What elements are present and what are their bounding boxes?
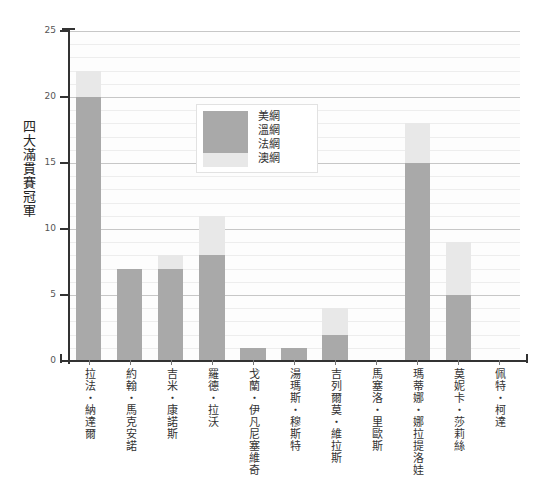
- x-tick-label: 莫妮卡・莎莉絲: [452, 368, 465, 452]
- x-tick-mark: [499, 360, 500, 365]
- x-tick-mark: [130, 360, 131, 365]
- gridline-minor: [68, 57, 520, 58]
- bar-segment: [322, 335, 347, 348]
- x-tick-mark: [212, 360, 213, 365]
- x-tick-mark: [253, 360, 254, 365]
- bar-column: [446, 242, 471, 361]
- chart-legend: 美網溫網法網澳網: [196, 104, 318, 173]
- bar-segment: [158, 269, 183, 295]
- x-tick-mark: [335, 360, 336, 365]
- y-tick-mark: [60, 162, 68, 164]
- y-axis-top-cap: [62, 28, 75, 30]
- bar-segment: [158, 295, 183, 361]
- bar-column: [405, 123, 430, 361]
- y-tick-label: 5: [4, 289, 56, 299]
- x-tick-mark: [294, 360, 295, 365]
- chart-figure: 四大滿貫賽冠軍 0510152025 拉法・納達爾約翰・馬克安諾吉米・康諾斯羅德…: [0, 0, 547, 490]
- gridline-minor: [68, 71, 520, 72]
- bar-column: [199, 216, 224, 361]
- x-tick-label: 湯瑪斯・穆斯特: [288, 368, 301, 452]
- x-tick-label: 吉米・康諾斯: [165, 368, 178, 440]
- x-tick-label: 拉法・納達爾: [83, 368, 96, 440]
- bar-column: [158, 255, 183, 361]
- x-tick-label: 戈蘭・伊凡尼塞維奇: [247, 368, 260, 476]
- legend-swatch: [203, 153, 248, 167]
- bar-segment: [76, 308, 101, 361]
- bar-segment: [76, 282, 101, 308]
- plot-area: [68, 31, 520, 361]
- y-tick-label: 10: [4, 223, 56, 233]
- y-tick-mark: [60, 228, 68, 230]
- x-tick-mark: [89, 360, 90, 365]
- bar-segment: [199, 282, 224, 335]
- x-tick-mark: [417, 360, 418, 365]
- bar-column: [117, 269, 142, 361]
- y-tick-label: 0: [4, 355, 56, 365]
- x-axis-left-cap: [60, 354, 62, 363]
- y-axis-line: [68, 28, 70, 364]
- y-tick-label: 15: [4, 157, 56, 167]
- gridline-minor: [68, 216, 520, 217]
- legend-label-stack: 美網溫網法網澳網: [258, 110, 280, 166]
- y-tick-mark: [60, 294, 68, 296]
- legend-swatch: [203, 125, 248, 139]
- bar-segment: [199, 255, 224, 281]
- gridline-minor: [68, 189, 520, 190]
- bar-segment: [76, 97, 101, 282]
- gridline-minor: [68, 44, 520, 45]
- y-axis-title: 四大滿貫賽冠軍: [14, 120, 36, 218]
- bar-segment: [405, 123, 430, 163]
- gridline-minor: [68, 84, 520, 85]
- bar-segment: [405, 308, 430, 361]
- legend-label: 美網: [258, 110, 280, 124]
- bar-segment: [405, 189, 430, 308]
- legend-label: 溫網: [258, 124, 280, 138]
- x-tick-label: 瑪蒂娜・娜拉提洛娃: [411, 368, 424, 476]
- x-tick-label: 羅德・拉沃: [206, 368, 219, 428]
- bar-segment: [446, 335, 471, 361]
- bar-segment: [117, 269, 142, 309]
- bar-column: [322, 308, 347, 361]
- bar-segment: [158, 255, 183, 268]
- bar-segment: [199, 216, 224, 256]
- y-tick-mark: [60, 96, 68, 98]
- bar-column: [76, 71, 101, 361]
- y-tick-mark: [60, 30, 68, 32]
- bar-segment: [199, 335, 224, 361]
- x-tick-mark: [171, 360, 172, 365]
- legend-swatch: [203, 111, 248, 125]
- x-tick-label: 約翰・馬克安諾: [124, 368, 137, 452]
- bar-segment: [76, 71, 101, 97]
- y-tick-label: 25: [4, 25, 56, 35]
- x-tick-mark: [376, 360, 377, 365]
- bar-segment: [322, 308, 347, 334]
- legend-swatch-stack: [203, 111, 248, 167]
- legend-label: 法網: [258, 138, 280, 152]
- gridline-major: [68, 229, 520, 230]
- bar-segment: [446, 242, 471, 295]
- y-tick-label: 20: [4, 91, 56, 101]
- x-tick-label: 馬塞洛・里歐斯: [370, 368, 383, 452]
- bar-segment: [117, 308, 142, 361]
- gridline-major: [68, 97, 520, 98]
- x-tick-label: 佩特・柯達: [493, 368, 506, 428]
- x-tick-mark: [458, 360, 459, 365]
- gridline-minor: [68, 203, 520, 204]
- x-tick-label: 吉列爾莫・維拉斯: [329, 368, 342, 464]
- gridline-minor: [68, 176, 520, 177]
- bar-segment: [446, 295, 471, 335]
- legend-swatch: [203, 139, 248, 153]
- legend-label: 澳網: [258, 152, 280, 166]
- x-axis-right-cap: [526, 354, 528, 363]
- gridline-major: [68, 31, 520, 32]
- bar-segment: [405, 163, 430, 189]
